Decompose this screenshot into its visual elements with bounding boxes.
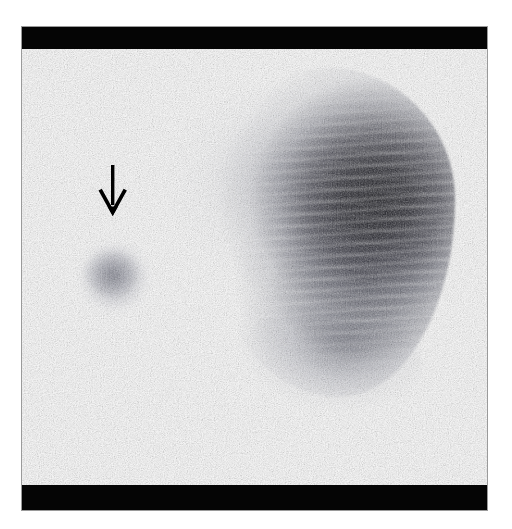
footer-band xyxy=(22,485,487,510)
header-band xyxy=(22,27,487,49)
imaging-field xyxy=(22,49,487,487)
scan-figure xyxy=(0,0,512,529)
scan-plate xyxy=(21,26,488,511)
small-focus-core xyxy=(86,251,138,295)
down-arrow-icon xyxy=(96,165,130,217)
